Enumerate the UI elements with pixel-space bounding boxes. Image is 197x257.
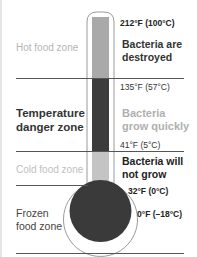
temp-boiling: 212°F (100°C) — [120, 18, 175, 28]
frozen-food-zone-label: Frozen food zone — [16, 207, 62, 232]
temp-hot-hold: 135°F (57°C) — [120, 82, 170, 92]
danger-zone-fill — [92, 78, 109, 151]
description-line: Bacteria — [122, 107, 189, 120]
temp-fridge: 41°F (5°C) — [120, 140, 160, 150]
frozen-zone-label-line: food zone — [16, 220, 62, 233]
bottom-line — [16, 253, 184, 254]
boundary-line-danger-cold — [16, 151, 184, 152]
temp-freezer: 0°F (–18°C) — [137, 209, 182, 219]
danger-zone-description: Bacteria grow quickly — [122, 107, 189, 133]
frozen-zone-label-line: Frozen — [16, 207, 62, 220]
cold-zone-description: Bacteria will not grow — [122, 155, 183, 180]
danger-zone-label-line: danger zone — [16, 121, 85, 135]
description-line: not grow — [122, 168, 183, 181]
description-line: Bacteria will — [122, 155, 183, 168]
temp-freezing: 32°F (0°C) — [128, 186, 168, 196]
thermometer-bulb — [70, 180, 132, 242]
description-line: grow quickly — [122, 120, 189, 133]
danger-zone-label: Temperature danger zone — [16, 107, 85, 135]
boundary-line-cold-frozen — [16, 185, 88, 186]
hot-zone-description: Bacteria are destroyed — [122, 38, 182, 63]
description-line: Bacteria are — [122, 38, 182, 51]
cold-food-zone-label: Cold food zone — [16, 164, 83, 176]
boundary-line-hot-danger — [16, 78, 184, 79]
description-line: destroyed — [122, 51, 182, 64]
hot-zone-fill — [92, 17, 109, 78]
danger-zone-label-line: Temperature — [16, 107, 85, 121]
hot-food-zone-label: Hot food zone — [16, 42, 78, 54]
